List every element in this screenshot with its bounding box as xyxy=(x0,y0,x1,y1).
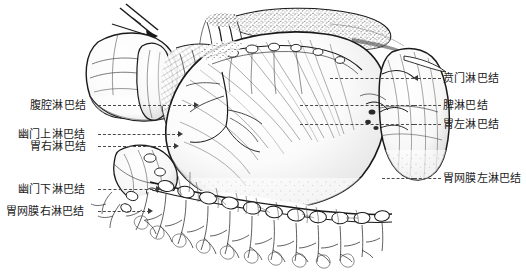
leader-line-left-gastroomental xyxy=(414,178,441,179)
leader-line-cardiac xyxy=(418,78,441,79)
leader-line-left-gastric xyxy=(414,124,441,125)
omentum-left-tags xyxy=(91,192,120,228)
arrowhead-subpyloric xyxy=(156,186,161,192)
arrowhead-right-gastroomental xyxy=(148,208,153,214)
leader-line-celiac xyxy=(98,105,196,106)
label-right-gastric-lymph-nodes: 胃右淋巴结 xyxy=(30,140,86,152)
leader-line-suprapyloric xyxy=(98,134,180,135)
leader-line-splenic xyxy=(414,105,441,106)
leader-line-splenic-inner xyxy=(300,105,414,106)
arrowhead-celiac xyxy=(194,102,199,108)
arrowhead-right-gastric xyxy=(174,143,179,149)
label-splenic-lymph-nodes: 脾淋巴结 xyxy=(443,99,488,111)
leader-line-right-gastric xyxy=(98,146,176,147)
arrowhead-suprapyloric xyxy=(178,131,183,137)
leader-line-cardiac-inner xyxy=(330,78,414,79)
leader-line-left-gastroomental-inner xyxy=(382,178,414,179)
label-left-gastric-lymph-nodes: 胃左淋巴结 xyxy=(443,118,499,130)
label-right-gastroomental-lymph-nodes: 胃网膜右淋巴结 xyxy=(6,205,84,217)
label-suprapyloric-lymph-nodes: 幽门上淋巴结 xyxy=(18,128,85,140)
label-celiac-lymph-nodes: 腹腔淋巴结 xyxy=(30,99,86,111)
leader-line-subpyloric xyxy=(98,189,158,190)
figure-canvas: 腹腔淋巴结 幽门上淋巴结 胃右淋巴结 幽门下淋巴结 胃网膜右淋巴结 贲门淋巴结 … xyxy=(0,0,526,272)
leader-line-left-gastric-inner xyxy=(300,124,414,125)
label-cardiac-lymph-nodes: 贲门淋巴结 xyxy=(443,72,499,84)
label-subpyloric-lymph-nodes: 幽门下淋巴结 xyxy=(18,183,85,195)
label-left-gastroomental-lymph-nodes: 胃网膜左淋巴结 xyxy=(443,172,521,184)
leader-line-right-gastroomental xyxy=(98,211,150,212)
